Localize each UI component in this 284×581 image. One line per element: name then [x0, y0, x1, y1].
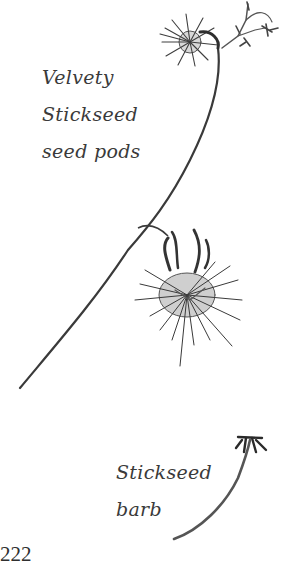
caption-line: barb [116, 491, 212, 528]
caption-line: seed pods [42, 133, 141, 170]
seed-pods-caption: Velvety Stickseed seed pods [42, 59, 141, 170]
barb-caption: Stickseed barb [116, 454, 212, 528]
lower-seed-pod [135, 230, 242, 366]
upper-seed-pod [160, 14, 218, 66]
flower-cluster [222, 2, 278, 48]
page-number: 222 [0, 542, 32, 567]
caption-line: Stickseed [42, 96, 141, 133]
caption-line: Stickseed [116, 454, 212, 491]
caption-line: Velvety [42, 59, 141, 96]
